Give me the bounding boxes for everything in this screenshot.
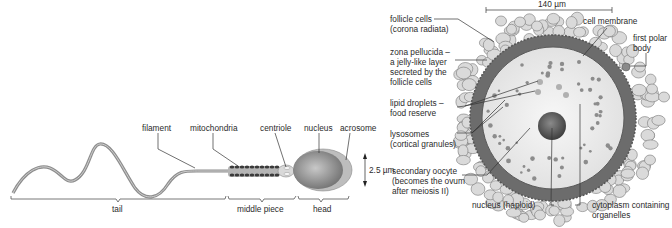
label-egg-nucleus: nucleus (haploid) <box>472 200 535 210</box>
egg-scale-bar: 140 µm <box>486 0 612 13</box>
label-filament: filament <box>142 123 172 133</box>
follicle-cell <box>515 17 526 27</box>
granule <box>502 139 505 142</box>
follicle-cell <box>547 13 560 24</box>
granule <box>487 110 490 113</box>
follicle-cell <box>456 67 471 79</box>
granule <box>560 62 564 66</box>
granule <box>577 60 581 64</box>
granule <box>506 146 511 151</box>
granule <box>589 150 592 153</box>
middle-piece <box>228 165 280 177</box>
egg-scale-label: 140 µm <box>538 0 566 9</box>
label-centriole: centriole <box>260 123 292 133</box>
label-cell-membrane: cell membrane <box>583 16 638 26</box>
granule <box>599 110 603 114</box>
mitochondrion <box>235 165 240 168</box>
granule <box>561 156 564 159</box>
granule <box>599 95 603 99</box>
follicle-cell <box>603 26 615 37</box>
granule <box>577 82 580 85</box>
label-first-polar-body: first polar body <box>633 33 669 53</box>
follicle-cell <box>636 167 648 179</box>
section-braces <box>11 196 349 202</box>
granule <box>493 134 497 138</box>
lipid-droplet <box>535 89 541 95</box>
follicle-cell <box>483 39 494 51</box>
granule <box>557 174 561 178</box>
follicle-cell <box>610 44 622 56</box>
granule <box>530 156 535 161</box>
mitochondrion <box>250 173 255 176</box>
granule <box>488 123 493 128</box>
granule <box>516 89 519 92</box>
granule <box>590 126 594 130</box>
granule <box>554 157 558 161</box>
lipid-droplet <box>556 84 562 90</box>
granule <box>560 166 564 170</box>
granule <box>547 156 551 160</box>
granule <box>527 169 530 172</box>
mitochondrion <box>250 165 255 168</box>
mitochondrion <box>245 173 250 176</box>
follicle-cell <box>643 140 658 149</box>
follicle-cell <box>645 74 656 85</box>
mitochondrion <box>260 165 265 168</box>
granule <box>584 160 589 165</box>
follicle-cell <box>535 210 546 220</box>
mitochondrion <box>265 173 270 176</box>
diagram-canvas: filament mitochondria centriole nucleus … <box>0 0 672 228</box>
follicle-cell <box>490 181 501 191</box>
label-acrosome: acrosome <box>340 123 377 133</box>
follicle-cell <box>632 84 646 96</box>
granule <box>520 171 523 174</box>
granule <box>591 77 595 81</box>
label-nucleus-sperm: nucleus <box>304 123 333 133</box>
follicle-cell <box>455 131 467 141</box>
follicle-cell <box>659 92 670 102</box>
follicle-cell <box>532 21 543 31</box>
follicle-cell <box>621 169 635 178</box>
sperm-cell <box>13 144 352 197</box>
mitochondrion <box>235 173 240 176</box>
label-head: head <box>313 204 332 214</box>
label-mitochondria: mitochondria <box>190 123 238 133</box>
lipid-droplet <box>563 92 569 98</box>
lipid-droplet <box>537 79 543 85</box>
follicle-cell <box>577 203 589 212</box>
mitochondrion <box>270 165 275 168</box>
label-lysosomes: lysosomes (cortical granules) <box>390 129 456 149</box>
granule <box>597 78 601 82</box>
granule <box>598 114 601 117</box>
sperm-scale-bar: 2.5 µm <box>363 153 395 187</box>
label-follicle-cells: follicle cells (corona radiata) <box>390 14 449 34</box>
label-lipid-droplets: lipid droplets – food reserve <box>390 98 446 118</box>
follicle-cell <box>641 129 655 141</box>
follicle-cell <box>549 206 559 215</box>
mitochondrion <box>265 165 270 168</box>
granule <box>580 88 584 92</box>
granule <box>595 113 599 117</box>
follicle-cell <box>462 79 476 91</box>
sperm-nucleus <box>293 151 343 189</box>
granule <box>548 61 552 65</box>
granule <box>526 81 529 84</box>
follicle-cell <box>613 185 626 198</box>
follicle-cell <box>635 62 646 72</box>
label-middle-piece: middle piece <box>237 204 284 214</box>
granule <box>546 71 550 75</box>
sperm-scale-label: 2.5 µm <box>369 165 395 175</box>
follicle-cell <box>645 155 656 165</box>
follicle-cell <box>554 215 565 227</box>
follicle-cell <box>496 16 507 26</box>
granule <box>608 146 612 150</box>
label-cytoplasm: cytoplasm containing organelles <box>592 200 672 220</box>
granule <box>506 159 511 164</box>
sperm-tail <box>13 144 232 197</box>
mitochondrion <box>240 165 245 168</box>
mitochondrion <box>230 173 235 176</box>
mitochondrion <box>255 165 260 168</box>
mitochondrion <box>245 165 250 168</box>
granule <box>523 165 526 168</box>
label-zona-pellucida: zona pellucida – a jelly-like layer secr… <box>390 47 452 87</box>
